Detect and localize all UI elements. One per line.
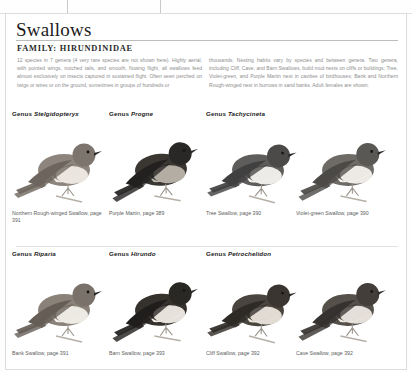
genus-heading-riparia: Genus Riparia bbox=[12, 250, 56, 257]
genus-label: Genus bbox=[109, 250, 131, 257]
bird-illustration bbox=[109, 262, 201, 348]
species-caption[interactable]: Cave Swallow, page 392 bbox=[296, 350, 388, 357]
genus-name: Progne bbox=[131, 110, 153, 117]
bird-illustration bbox=[296, 122, 388, 208]
bird-illustration bbox=[206, 262, 298, 348]
species-caption[interactable]: Northern Rough-winged Swallow, page 391 bbox=[12, 210, 104, 225]
field-guide-page: Swallows FAMILY: HIRUNDINIDAE 12 species… bbox=[0, 0, 412, 373]
genus-name: Tachycineta bbox=[228, 110, 265, 117]
bird-illustration bbox=[12, 262, 104, 348]
intro-column-left: 12 species in 7 genera (4 very rare spec… bbox=[17, 56, 202, 89]
intro-column-right: thousands. Nesting habits vary by specie… bbox=[209, 56, 398, 89]
title-rule bbox=[16, 40, 398, 41]
family-subtitle: FAMILY: HIRUNDINIDAE bbox=[17, 44, 133, 53]
species-caption[interactable]: Violet-green Swallow, page 390 bbox=[296, 210, 388, 217]
bird-illustration bbox=[206, 122, 298, 208]
species-caption[interactable]: Tree Swallow, page 390 bbox=[206, 210, 298, 217]
species-caption[interactable]: Cliff Swallow, page 392 bbox=[206, 350, 298, 357]
genus-heading-progne: Genus Progne bbox=[109, 110, 153, 117]
bird-illustration bbox=[296, 262, 388, 348]
row-divider bbox=[16, 246, 398, 247]
species-caption[interactable]: Barn Swallow, page 393 bbox=[109, 350, 201, 357]
genus-label: Genus bbox=[12, 110, 34, 117]
page-title: Swallows bbox=[16, 20, 92, 39]
genus-name: Riparia bbox=[34, 250, 56, 257]
bird-illustration bbox=[12, 122, 104, 208]
genus-name: Petrochelidon bbox=[228, 250, 271, 257]
genus-heading-tachycineta: Genus Tachycineta bbox=[206, 110, 265, 117]
genus-label: Genus bbox=[206, 110, 228, 117]
genus-name: Hirundo bbox=[131, 250, 156, 257]
bird-illustration bbox=[109, 122, 201, 208]
genus-label: Genus bbox=[109, 110, 131, 117]
genus-heading-petrochelidon: Genus Petrochelidon bbox=[206, 250, 271, 257]
species-caption[interactable]: Bank Swallow, page 391 bbox=[12, 350, 104, 357]
genus-heading-hirundo: Genus Hirundo bbox=[109, 250, 156, 257]
genus-heading-stelgidopteryx: Genus Stelgidopteryx bbox=[12, 110, 79, 117]
genus-name: Stelgidopteryx bbox=[34, 110, 79, 117]
page-sheet: Swallows FAMILY: HIRUNDINIDAE 12 species… bbox=[5, 13, 407, 370]
genus-label: Genus bbox=[206, 250, 228, 257]
species-caption[interactable]: Purple Martin, page 389 bbox=[109, 210, 201, 217]
genus-label: Genus bbox=[12, 250, 34, 257]
